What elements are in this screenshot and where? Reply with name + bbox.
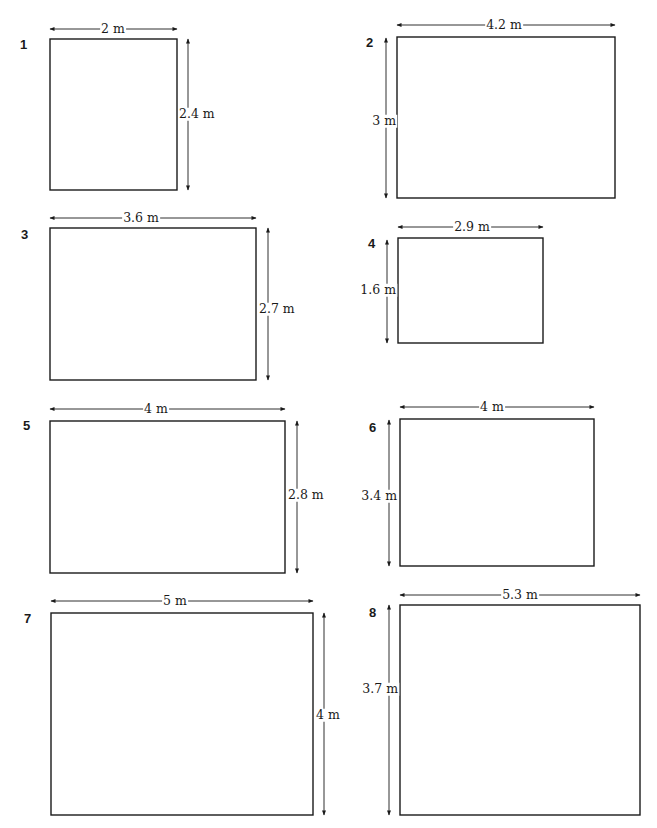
width-label-7: 5 m: [162, 595, 188, 608]
height-label-6: 3.4 m: [360, 490, 398, 503]
figure-2: [386, 25, 615, 198]
width-label-2: 4.2 m: [485, 19, 523, 32]
figure-number-6: 6: [369, 421, 376, 434]
figure-number-7: 7: [24, 612, 31, 625]
height-label-5: 2.8 m: [287, 489, 325, 502]
rectangle-5: [50, 421, 285, 573]
width-label-6: 4 m: [479, 401, 505, 414]
height-label-8: 3.7 m: [361, 683, 399, 696]
height-label-1: 2.4 m: [178, 108, 216, 121]
rectangle-1: [50, 39, 177, 190]
height-label-2: 3 m: [371, 115, 397, 128]
figure-3: [50, 218, 268, 380]
figure-8: [389, 595, 640, 815]
figure-5: [50, 409, 297, 573]
rectangle-3: [50, 228, 256, 380]
width-label-4: 2.9 m: [453, 221, 491, 234]
width-label-1: 2 m: [100, 23, 126, 36]
figure-1: [50, 29, 188, 190]
figure-7: [51, 601, 324, 815]
width-label-8: 5.3 m: [501, 589, 539, 602]
figure-number-5: 5: [23, 419, 30, 432]
figure-number-8: 8: [369, 606, 376, 619]
rectangle-8: [400, 605, 640, 815]
figure-number-3: 3: [21, 228, 28, 241]
figure-number-2: 2: [366, 36, 373, 49]
rectangle-6: [400, 419, 594, 566]
rectangles-worksheet: 1 2 3 4 5 6 7 8 2 m 4.2 m 3.6 m 2.9 m 4 …: [0, 0, 657, 828]
height-label-3: 2.7 m: [258, 303, 296, 316]
height-label-7: 4 m: [315, 709, 341, 722]
rectangle-7: [51, 613, 313, 815]
height-label-4: 1.6 m: [359, 284, 397, 297]
figure-4: [387, 227, 543, 343]
figure-number-4: 4: [368, 237, 375, 250]
figure-number-1: 1: [20, 38, 27, 51]
rectangle-4: [398, 238, 543, 343]
figure-6: [389, 407, 594, 566]
width-label-5: 4 m: [143, 403, 169, 416]
width-label-3: 3.6 m: [122, 212, 160, 225]
rectangle-2: [397, 37, 615, 198]
rectangle-drawings: [0, 0, 657, 828]
